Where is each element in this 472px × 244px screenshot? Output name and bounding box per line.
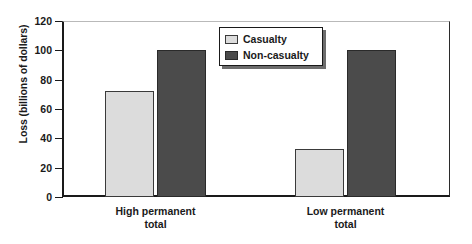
y-tick-label: 80 — [4, 74, 52, 86]
legend: Casualty Non-casualty — [219, 27, 323, 66]
legend-item-casualty: Casualty — [225, 31, 317, 47]
x-axis-label-line: Low permanent — [271, 205, 421, 218]
x-axis-label-line: total — [271, 218, 421, 231]
y-tick-label: 100 — [4, 44, 52, 56]
y-tick-label: 40 — [4, 132, 52, 144]
x-axis-label-line: High permanent — [81, 205, 231, 218]
y-tick-label: 20 — [4, 162, 52, 174]
legend-swatch-icon-casualty — [225, 35, 238, 44]
legend-item-non-casualty: Non-casualty — [225, 47, 317, 63]
x-axis-label-line: total — [81, 218, 231, 231]
legend-swatch-icon-non-casualty — [225, 51, 238, 60]
y-tick-label: 60 — [4, 103, 52, 115]
y-tick-label: 120 — [4, 15, 52, 27]
x-axis-label-group-1: High permanenttotal — [81, 205, 231, 230]
legend-label-non-casualty: Non-casualty — [243, 49, 309, 61]
x-axis-label-group-2: Low permanenttotal — [271, 205, 421, 230]
bar-chart: Loss (billions of dollars) 0204060801001… — [0, 0, 472, 244]
y-tick-mark — [55, 197, 63, 198]
legend-label-casualty: Casualty — [243, 33, 287, 45]
y-tick-label: 0 — [4, 191, 52, 203]
